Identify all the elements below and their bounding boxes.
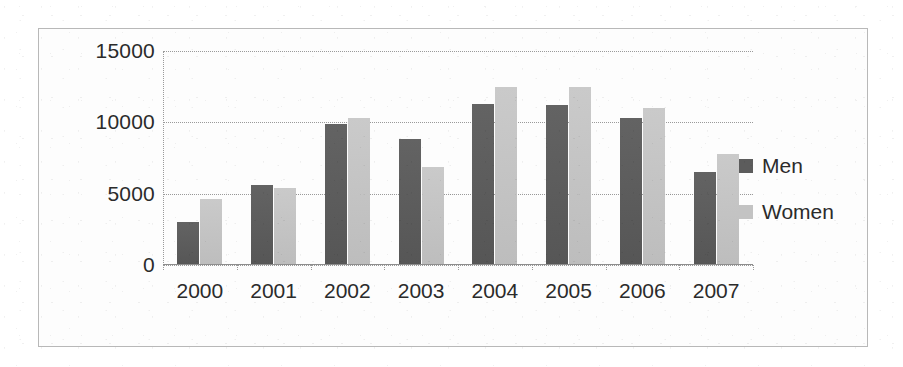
legend-label: Women — [762, 200, 834, 224]
bar-women-2000[interactable] — [200, 199, 222, 265]
y-axis-tick-label: 5000 — [107, 182, 155, 206]
bar-group — [546, 51, 591, 265]
y-axis-tick-label: 0 — [143, 253, 155, 277]
x-axis-tick-mark — [458, 265, 459, 270]
legend-item-women[interactable]: Women — [739, 200, 834, 224]
bar-group — [694, 51, 739, 265]
bar-men-2002[interactable] — [325, 124, 347, 265]
bar-men-2004[interactable] — [472, 104, 494, 265]
bar-men-2005[interactable] — [546, 105, 568, 266]
x-axis-tick-label: 2002 — [324, 279, 371, 303]
bar-men-2003[interactable] — [399, 139, 421, 265]
x-axis-tick-mark — [237, 265, 238, 270]
x-axis-tick-label: 2007 — [693, 279, 740, 303]
y-axis-tick-label: 10000 — [96, 110, 155, 134]
x-axis-tick-mark — [384, 265, 385, 270]
legend-label: Men — [762, 154, 803, 178]
women-swatch-icon — [739, 205, 753, 219]
bar-women-2006[interactable] — [643, 108, 665, 265]
x-axis-tick-mark — [606, 265, 607, 270]
bar-women-2003[interactable] — [422, 167, 444, 265]
x-axis-tick-label: 2003 — [398, 279, 445, 303]
bar-group — [472, 51, 517, 265]
x-axis-line — [163, 264, 753, 265]
x-axis-tick-mark — [679, 265, 680, 270]
men-swatch-icon — [739, 159, 753, 173]
x-axis-tick-mark — [532, 265, 533, 270]
bar-group — [177, 51, 222, 265]
x-axis-tick-label: 2001 — [250, 279, 297, 303]
bar-women-2002[interactable] — [348, 118, 370, 265]
x-axis-tick-label: 2006 — [619, 279, 666, 303]
bar-group — [399, 51, 444, 265]
x-axis-tick-mark — [311, 265, 312, 270]
chart-legend: MenWomen — [739, 154, 834, 246]
bar-men-2001[interactable] — [251, 185, 273, 265]
legend-item-men[interactable]: Men — [739, 154, 834, 178]
x-axis-tick-mark — [163, 265, 164, 270]
bar-women-2005[interactable] — [569, 87, 591, 265]
bar-women-2007[interactable] — [717, 154, 739, 265]
plot-area — [163, 51, 753, 265]
x-axis-tick-mark — [753, 265, 754, 270]
x-axis-tick-label: 2004 — [472, 279, 519, 303]
bar-group — [325, 51, 370, 265]
bar-women-2004[interactable] — [495, 87, 517, 265]
y-axis-tick-label: 15000 — [96, 39, 155, 63]
chart-frame: 050001000015000 200020012002200320042005… — [38, 28, 868, 347]
x-axis-labels: 20002001200220032004200520062007 — [163, 279, 753, 311]
bars-layer — [163, 51, 753, 265]
bar-men-2000[interactable] — [177, 222, 199, 265]
y-axis-labels: 050001000015000 — [39, 51, 155, 265]
bar-men-2007[interactable] — [694, 172, 716, 265]
bar-women-2001[interactable] — [274, 188, 296, 265]
bar-group — [251, 51, 296, 265]
bar-group — [620, 51, 665, 265]
x-axis-tick-label: 2005 — [545, 279, 592, 303]
bar-men-2006[interactable] — [620, 118, 642, 265]
x-axis-tick-label: 2000 — [177, 279, 224, 303]
